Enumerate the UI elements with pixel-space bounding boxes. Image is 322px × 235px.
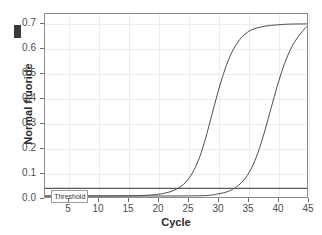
x-tick-label: 40 (263, 203, 293, 214)
y-axis-tick (40, 198, 44, 199)
x-axis-tick (278, 198, 279, 202)
y-tick-label: 0.7 (8, 17, 36, 28)
x-axis-tick (308, 198, 309, 202)
plot-area (44, 13, 308, 198)
x-axis-tick (218, 198, 219, 202)
x-axis-title: Cycle (44, 216, 308, 228)
curve-layer (45, 14, 307, 197)
x-tick-label: 25 (173, 203, 203, 214)
y-tick-label: 0.4 (8, 92, 36, 103)
threshold-label: Threshold (51, 190, 88, 203)
x-axis-tick (188, 198, 189, 202)
y-tick-label: 0.0 (8, 192, 36, 203)
chart-figure: Normal fluoride 0.00.10.20.30.40.50.60.7… (0, 0, 322, 235)
y-tick-label: 0.2 (8, 142, 36, 153)
x-axis-tick (128, 198, 129, 202)
x-tick-label: 5 (53, 203, 83, 214)
y-axis-tick (40, 73, 44, 74)
series-curve-1 (45, 24, 307, 196)
y-axis-tick (40, 173, 44, 174)
x-axis-tick (68, 198, 69, 202)
gridline-vertical (309, 14, 310, 197)
x-tick-label: 30 (203, 203, 233, 214)
x-axis-tick (158, 198, 159, 202)
x-tick-label: 35 (233, 203, 263, 214)
x-tick-label: 15 (113, 203, 143, 214)
y-tick-label: 0.6 (8, 42, 36, 53)
y-axis-tick (40, 23, 44, 24)
y-axis-tick (40, 123, 44, 124)
y-tick-label: 0.5 (8, 67, 36, 78)
x-tick-label: 10 (83, 203, 113, 214)
x-axis-tick (248, 198, 249, 202)
series-curve-2 (45, 26, 307, 196)
x-axis-tick (98, 198, 99, 202)
y-axis-tick (40, 148, 44, 149)
y-axis-tick (40, 98, 44, 99)
y-tick-label: 0.1 (8, 167, 36, 178)
x-tick-label: 20 (143, 203, 173, 214)
x-tick-label: 45 (293, 203, 322, 214)
y-axis-tick (40, 48, 44, 49)
y-tick-label: 0.3 (8, 117, 36, 128)
